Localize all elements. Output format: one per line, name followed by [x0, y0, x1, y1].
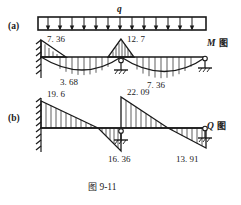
roller-support-right-a — [198, 56, 212, 72]
shear-block-left-positive — [41, 101, 98, 128]
moment-sag-left-span — [41, 57, 121, 75]
shear-diagram-symbol: Q — [207, 121, 214, 131]
shear-diagram-label: Q 图 — [207, 122, 226, 132]
shear-value-middle-bottom: 16. 36 — [108, 155, 131, 164]
shear-value-right-bottom: 13. 91 — [176, 155, 199, 164]
moment-diagram-label: M 图 — [207, 39, 228, 49]
load-label-q: q — [117, 5, 122, 15]
figure-caption-number: 9-11 — [97, 182, 116, 192]
structural-diagram-canvas — [0, 0, 241, 205]
shear-block-right-positive — [121, 97, 168, 128]
moment-value-support-middle: 12. 7 — [127, 35, 145, 44]
moment-diagram-cjk: 图 — [215, 38, 227, 48]
figure-caption: 图 9-11 — [88, 183, 116, 193]
fixed-support-left-b — [36, 98, 41, 152]
roller-support-middle-b — [114, 129, 128, 144]
shear-value-middle-top: 22. 09 — [127, 88, 150, 97]
moment-value-support-left: 7. 36 — [47, 35, 65, 44]
shear-value-left-top: 19. 6 — [47, 90, 65, 99]
distributed-load-band — [38, 17, 206, 30]
figure-container: (a) (b) q 7. 36 12. 7 3. 68 7. 36 M 图 19… — [0, 0, 241, 205]
moment-value-span-left: 3. 68 — [60, 78, 78, 87]
panel-tag-a: (a) — [8, 22, 19, 32]
moment-sag-right-span — [121, 57, 206, 78]
panel-tag-b: (b) — [8, 114, 20, 124]
shear-diagram-cjk: 图 — [214, 121, 226, 131]
figure-caption-cjk: 图 — [88, 182, 97, 192]
fixed-support-left — [36, 40, 41, 78]
